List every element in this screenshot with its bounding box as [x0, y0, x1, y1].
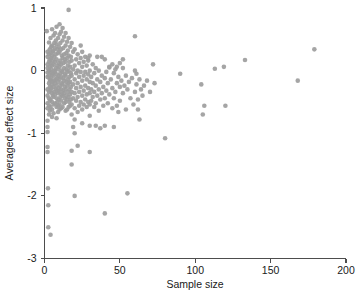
data-point	[104, 88, 109, 93]
data-point	[101, 85, 106, 90]
data-point	[45, 150, 50, 155]
data-point	[44, 29, 49, 34]
data-point	[178, 71, 183, 76]
y-tick-label: 1	[31, 2, 37, 14]
data-point	[95, 93, 100, 98]
data-point	[84, 63, 89, 68]
data-point	[78, 56, 83, 61]
data-point	[115, 81, 120, 86]
data-point	[53, 31, 58, 36]
x-tick-label: 150	[262, 264, 280, 276]
data-point	[69, 148, 74, 153]
data-point	[95, 55, 100, 60]
data-point	[98, 80, 103, 85]
data-point	[96, 108, 101, 113]
data-point	[92, 71, 97, 76]
x-axis-title: Sample size	[166, 278, 223, 290]
scatter-plot-figure: 10-1-2-3 050100150200 Sample size Averag…	[0, 0, 359, 298]
data-point	[127, 80, 132, 85]
data-point	[107, 65, 112, 70]
data-point	[74, 57, 79, 62]
data-point	[72, 77, 77, 82]
y-axis-title: Averaged effect size	[3, 85, 15, 180]
data-point	[98, 97, 103, 102]
data-point	[125, 87, 130, 92]
plot-axes	[45, 8, 347, 259]
data-point	[63, 31, 68, 36]
data-point	[101, 103, 106, 108]
data-point	[133, 90, 138, 95]
data-point	[80, 50, 85, 55]
data-point	[112, 96, 117, 101]
data-point	[145, 78, 150, 83]
data-point	[133, 34, 138, 39]
data-point	[106, 81, 111, 86]
data-point	[136, 97, 141, 102]
data-point	[213, 66, 218, 71]
data-point	[75, 143, 80, 148]
data-point	[92, 90, 97, 95]
data-point	[137, 77, 142, 82]
data-point	[69, 73, 74, 78]
data-point	[107, 92, 112, 97]
data-point	[45, 145, 50, 150]
data-point	[200, 112, 205, 117]
data-point	[223, 103, 228, 108]
data-point	[57, 22, 62, 27]
data-point	[110, 86, 115, 91]
data-point	[72, 91, 77, 96]
data-point	[222, 65, 227, 70]
data-point	[125, 191, 130, 196]
data-point	[48, 232, 53, 237]
data-point	[131, 102, 136, 107]
data-point	[134, 82, 139, 87]
data-point	[109, 77, 114, 82]
data-point	[87, 123, 92, 128]
data-point	[103, 123, 108, 128]
data-point	[115, 103, 120, 108]
data-point	[72, 194, 77, 199]
data-point	[74, 86, 79, 91]
data-point	[78, 70, 83, 75]
data-point	[75, 52, 80, 57]
data-point	[80, 107, 85, 112]
data-point	[152, 81, 157, 86]
data-point	[90, 95, 95, 100]
data-point	[69, 112, 74, 117]
data-point	[51, 111, 56, 116]
y-tick-label: 0	[31, 64, 37, 76]
data-point	[72, 131, 77, 136]
data-point	[93, 123, 98, 128]
data-point	[80, 93, 85, 98]
data-point	[69, 162, 74, 167]
data-point	[87, 113, 92, 118]
data-point	[69, 58, 74, 63]
data-point	[87, 68, 92, 73]
y-tick-label: -2	[27, 189, 36, 201]
data-point	[80, 121, 85, 126]
data-point	[128, 96, 133, 101]
data-point	[136, 107, 141, 112]
data-point	[124, 73, 129, 78]
data-point	[121, 57, 126, 62]
data-point	[69, 102, 74, 107]
data-point	[118, 61, 123, 66]
y-axis-ticks: 10-1-2-3	[27, 2, 44, 265]
x-tick-label: 0	[42, 264, 48, 276]
data-point	[69, 41, 74, 46]
data-point	[89, 75, 94, 80]
data-point	[80, 78, 85, 83]
data-point	[137, 117, 142, 122]
data-point	[71, 125, 76, 130]
data-point	[80, 65, 85, 70]
data-point	[75, 110, 80, 115]
data-point	[113, 90, 118, 95]
data-point	[50, 27, 55, 32]
data-point	[93, 83, 98, 88]
data-point	[77, 75, 82, 80]
data-point	[121, 66, 126, 71]
data-point	[103, 57, 108, 62]
data-point	[148, 90, 153, 95]
data-point	[116, 110, 121, 115]
data-point	[115, 65, 120, 70]
